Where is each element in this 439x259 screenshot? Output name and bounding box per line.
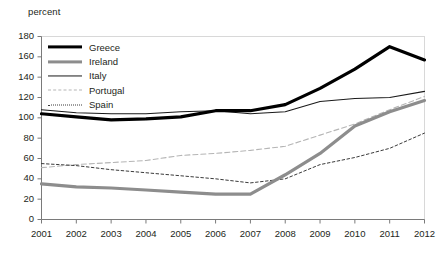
x-axis-tick-label: 2008 [268,228,302,239]
y-axis-tick-label: 40 [8,172,34,183]
chart-legend: GreeceIrelandItalyPortugalSpain [48,40,124,112]
legend-swatch-italy-icon [48,70,82,82]
legend-label: Ireland [89,56,118,67]
x-axis-tick-label: 2009 [303,228,337,239]
y-axis-tick-label: 120 [8,91,34,102]
legend-item-ireland[interactable]: Ireland [48,54,124,68]
x-axis-tick-label: 2006 [199,228,233,239]
legend-label: Portugal [89,85,124,96]
legend-item-italy[interactable]: Italy [48,69,124,83]
x-axis-tick-label: 2007 [233,228,267,239]
x-axis-tick-label: 2010 [338,228,372,239]
legend-swatch-ireland-icon [48,56,82,68]
x-axis-tick-label: 2005 [164,228,198,239]
x-axis-tick-label: 2002 [59,228,93,239]
legend-item-greece[interactable]: Greece [48,40,124,54]
series-line-ireland [42,101,425,195]
legend-item-portugal[interactable]: Portugal [48,83,124,97]
x-axis-tick-label: 2011 [373,228,407,239]
plot-area [0,0,439,259]
legend-label: Spain [89,99,113,110]
y-axis-tick-label: 0 [8,213,34,224]
line-chart: percent 180160140120100806040200 2001200… [0,0,439,259]
y-axis-tick-label: 80 [8,132,34,143]
legend-swatch-spain-icon [48,99,82,111]
y-axis-tick-label: 140 [8,71,34,82]
legend-swatch-greece-icon [48,41,82,53]
x-axis-tick-label: 2003 [94,228,128,239]
y-axis-tick-label: 20 [8,193,34,204]
legend-swatch-portugal-icon [48,84,82,96]
y-axis-tick-label: 180 [8,30,34,41]
x-axis-tick-label: 2004 [129,228,163,239]
y-axis-tick-label: 60 [8,152,34,163]
legend-label: Italy [89,70,106,81]
x-axis-tick-label: 2012 [408,228,439,239]
y-axis-tick-label: 160 [8,50,34,61]
series-line-spain [42,133,425,183]
y-axis-tick-label: 100 [8,111,34,122]
legend-label: Greece [89,42,120,53]
x-axis-tick-label: 2001 [25,228,59,239]
legend-item-spain[interactable]: Spain [48,98,124,112]
